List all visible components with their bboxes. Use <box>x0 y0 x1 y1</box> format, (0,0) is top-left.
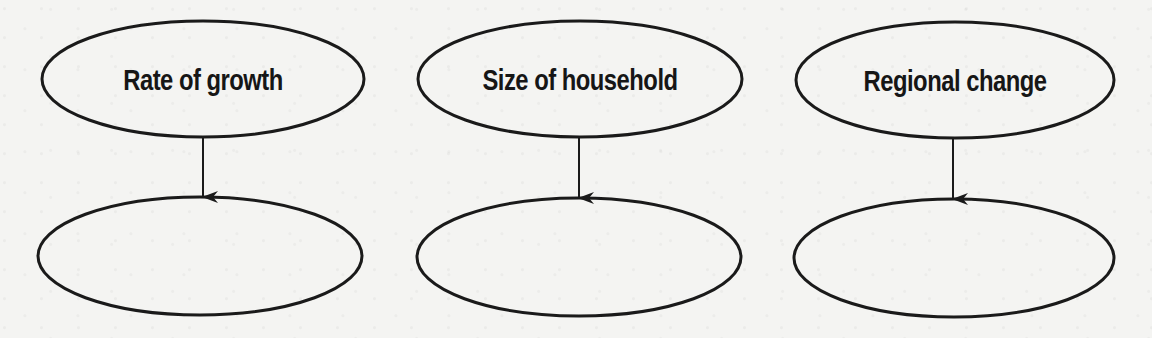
empty-ellipse-node <box>794 199 1114 317</box>
node-label-rate-of-growth: Rate of growth <box>123 66 283 95</box>
flow-diagram <box>0 0 1152 338</box>
arrow-group <box>203 137 953 199</box>
diagram-canvas: Rate of growth Size of household Regiona… <box>0 0 1152 338</box>
bottom-node-group <box>38 197 1114 317</box>
empty-ellipse-node <box>38 197 362 315</box>
empty-ellipse-node <box>417 198 741 316</box>
node-label-regional-change: Regional change <box>864 67 1047 96</box>
node-label-size-of-household: Size of household <box>482 66 677 95</box>
